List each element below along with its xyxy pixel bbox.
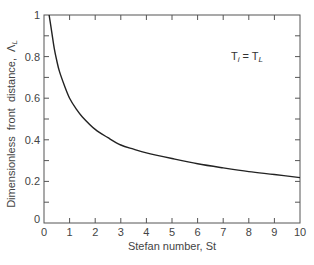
x-tick-label: 3 [118,226,124,238]
y-tick-label: 1 [34,9,40,21]
tick-labels: 01234567891000.20.40.60.81 [25,9,306,238]
plot-frame [44,15,300,223]
x-tick-label: 5 [169,226,175,238]
axis-ticks [44,15,300,223]
plot-border [44,15,300,223]
x-tick-label: 4 [143,226,149,238]
x-tick-label: 2 [92,226,98,238]
y-tick-label: 0 [34,213,40,225]
y-tick-label: 0.2 [25,175,40,187]
annotation: Ti = TL [231,50,263,64]
x-axis-label: Stefan number, St [128,240,216,252]
x-tick-label: 7 [220,226,226,238]
y-tick-label: 0.8 [25,51,40,63]
data-series-curve [49,15,300,178]
y-tick-label: 0.4 [25,134,40,146]
chart: 01234567891000.20.40.60.81 Ti = TL Stefa… [0,0,314,265]
x-tick-label: 9 [271,226,277,238]
x-tick-label: 10 [294,226,306,238]
x-tick-label: 0 [41,226,47,238]
x-tick-label: 8 [246,226,252,238]
x-tick-label: 1 [67,226,73,238]
x-tick-label: 6 [195,226,201,238]
y-axis-label: Dimensionless front distance, ΛL [5,40,19,208]
y-tick-label: 0.6 [25,92,40,104]
